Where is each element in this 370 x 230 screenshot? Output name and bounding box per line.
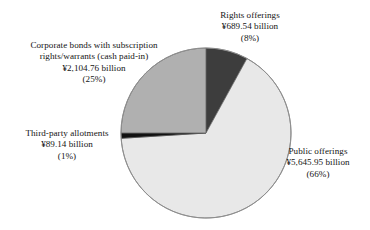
pie-chart: Rights offerings ¥689.54 billion (8%) Co…	[0, 0, 370, 230]
slice-label-corporate-percent: (25%)	[8, 74, 180, 85]
slice-label-corporate-name-line2: rights/warrants (cash paid-in)	[8, 51, 180, 62]
slice-label-thirdparty-name: Third-party allotments	[6, 128, 128, 139]
slice-label-public-offerings: Public offerings ¥5,645.95 billion (66%)	[268, 146, 368, 180]
slice-label-public-value: ¥5,645.95 billion	[268, 157, 368, 168]
pie-chart-graphic	[0, 0, 370, 230]
slice-label-corporate-value: ¥2,104.76 billion	[8, 63, 180, 74]
slice-label-thirdparty-value: ¥89.14 billion	[6, 139, 128, 150]
slice-label-rights-percent: (8%)	[196, 33, 304, 44]
slice-label-corporate-bonds: Corporate bonds with subscription rights…	[8, 40, 180, 86]
slice-label-corporate-name-line1: Corporate bonds with subscription	[8, 40, 180, 51]
slice-label-rights-value: ¥689.54 billion	[196, 21, 304, 32]
slice-label-rights-name: Rights offerings	[196, 10, 304, 21]
slice-label-public-name: Public offerings	[268, 146, 368, 157]
slice-label-rights-offerings: Rights offerings ¥689.54 billion (8%)	[196, 10, 304, 44]
slice-label-public-percent: (66%)	[268, 169, 368, 180]
slice-label-third-party-allotments: Third-party allotments ¥89.14 billion (1…	[6, 128, 128, 162]
slice-label-thirdparty-percent: (1%)	[6, 151, 128, 162]
